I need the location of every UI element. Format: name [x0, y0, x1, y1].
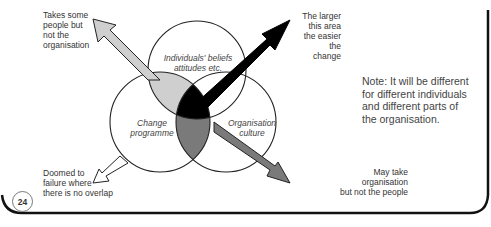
arrow-top-left-icon	[93, 19, 160, 80]
annotation-bottom-right: May take organisation but not the people	[290, 167, 408, 197]
circle-label-change: Change programme	[122, 118, 182, 138]
page-number-badge: 24	[12, 191, 33, 212]
annotation-bottom-left: Doomed to failure where there is no over…	[43, 168, 113, 198]
venn-diagram-figure: Individuals' beliefs attitudes etc. Chan…	[0, 0, 491, 227]
annotation-top-right: The larger this area the easier the chan…	[300, 11, 341, 61]
annotation-top-left: Takes some people but not the organisati…	[43, 10, 89, 50]
circle-label-individuals: Individuals' beliefs attitudes etc.	[157, 53, 239, 73]
note-text: Note: It will be different for different…	[362, 75, 469, 125]
circle-label-culture: Organisation culture	[217, 118, 287, 138]
